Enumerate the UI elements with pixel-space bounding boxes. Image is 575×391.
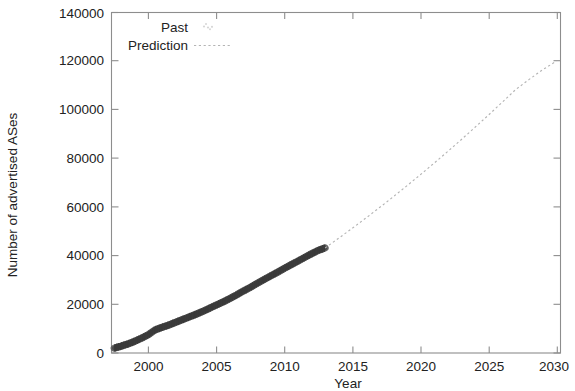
x-tick-label: 2020	[406, 359, 436, 374]
x-tick-label: 2010	[270, 359, 300, 374]
legend-label-prediction: Prediction	[128, 38, 188, 53]
chart-figure: 0 20000 40000 60000 80000 100000 120000 …	[0, 0, 575, 391]
y-tick-label: 40000	[66, 248, 104, 263]
y-tick-label: 20000	[66, 297, 104, 312]
y-tick-label: 100000	[59, 102, 104, 117]
y-tick-label: 0	[96, 346, 104, 361]
x-axis-title: Year	[334, 376, 362, 391]
y-tick-label: 120000	[59, 53, 104, 68]
y-tick-label: 60000	[66, 200, 104, 215]
x-tick-label: 2000	[133, 359, 163, 374]
x-tick-label: 2005	[202, 359, 232, 374]
legend-label-past: Past	[161, 20, 188, 35]
y-tick-label: 80000	[66, 151, 104, 166]
y-tick-label: 140000	[59, 6, 104, 21]
x-tick-label: 2015	[338, 359, 368, 374]
x-tick-label: 2030	[539, 359, 569, 374]
y-axis-title: Number of advertised ASes	[5, 113, 20, 278]
chart-svg: 0 20000 40000 60000 80000 100000 120000 …	[0, 0, 575, 391]
x-tick-label: 2025	[474, 359, 504, 374]
